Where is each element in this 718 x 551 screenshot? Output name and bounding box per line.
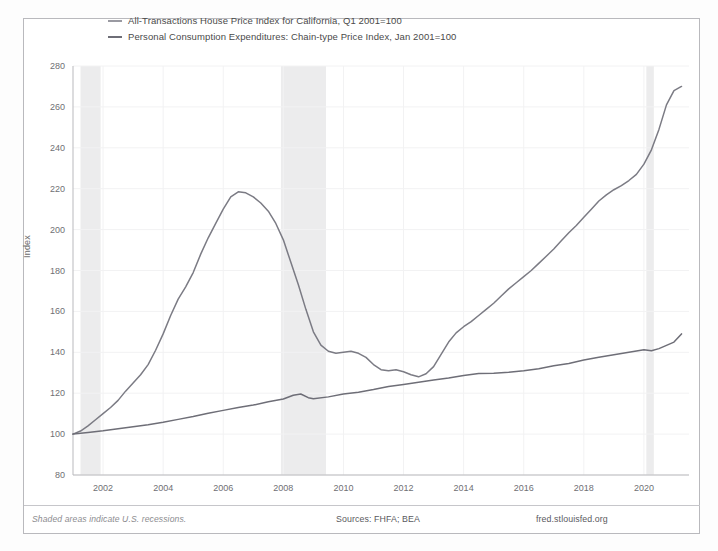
x-tick-2018: 2018 <box>574 483 594 493</box>
x-tick-2012: 2012 <box>394 483 414 493</box>
x-tick-2020: 2020 <box>634 483 654 493</box>
y-tick-240: 240 <box>50 143 65 153</box>
series-lines <box>73 86 681 434</box>
x-tick-labels: 2002200420062008201020122014201620182020 <box>93 483 654 493</box>
x-tick-2014: 2014 <box>454 483 474 493</box>
fred-chart-figure: All-Transactions House Price Index for C… <box>0 0 718 551</box>
y-tick-200: 200 <box>50 225 65 235</box>
y-tick-180: 180 <box>50 266 65 276</box>
y-tick-100: 100 <box>50 429 65 439</box>
series-line-pce[interactable] <box>73 334 681 434</box>
x-tick-2010: 2010 <box>333 483 353 493</box>
y-tick-160: 160 <box>50 306 65 316</box>
y-tick-labels: 80100120140160180200220240260280 <box>50 61 65 480</box>
recession-note: Shaded areas indicate U.S. recessions. <box>32 514 186 524</box>
x-tick-2002: 2002 <box>93 483 113 493</box>
y-tick-220: 220 <box>50 184 65 194</box>
y-tick-280: 280 <box>50 61 65 71</box>
grid-lines <box>73 66 689 475</box>
y-tick-80: 80 <box>55 470 65 480</box>
sources-label: Sources: FHFA; BEA <box>336 514 420 524</box>
x-tick-2004: 2004 <box>153 483 173 493</box>
chart-footer: Shaded areas indicate U.S. recessions. S… <box>24 505 700 534</box>
y-tick-120: 120 <box>50 388 65 398</box>
x-tick-2016: 2016 <box>514 483 534 493</box>
fred-brand-label[interactable]: fred.stlouisfed.org <box>536 514 608 524</box>
y-tick-260: 260 <box>50 102 65 112</box>
x-tick-2006: 2006 <box>213 483 233 493</box>
series-line-hpi[interactable] <box>73 86 681 434</box>
y-tick-140: 140 <box>50 347 65 357</box>
x-tick-2008: 2008 <box>273 483 293 493</box>
plot-area: 80100120140160180200220240260280 2002200… <box>0 0 718 551</box>
